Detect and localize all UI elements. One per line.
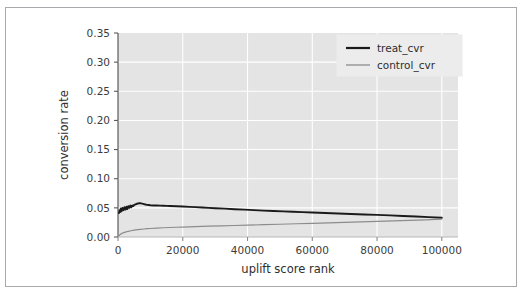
line-chart: 0.000.050.100.150.200.250.300.3502000040… xyxy=(0,0,524,298)
y-tick-label: 0.35 xyxy=(87,27,110,39)
y-tick-label: 0.00 xyxy=(87,231,110,243)
x-tick-label: 100000 xyxy=(422,244,462,256)
x-tick-label: 40000 xyxy=(231,244,264,256)
x-tick-label: 80000 xyxy=(360,244,393,256)
y-tick-label: 0.20 xyxy=(87,114,110,126)
x-tick-label: 0 xyxy=(115,244,122,256)
x-tick-label: 60000 xyxy=(296,244,329,256)
y-tick-label: 0.25 xyxy=(87,85,110,97)
figure-canvas: 0.000.050.100.150.200.250.300.3502000040… xyxy=(0,0,524,298)
y-tick-label: 0.30 xyxy=(87,56,110,68)
legend-label-control-cvr: control_cvr xyxy=(377,59,436,72)
x-axis-title: uplift score rank xyxy=(241,262,335,276)
x-tick-label: 20000 xyxy=(166,244,199,256)
y-tick-label: 0.15 xyxy=(87,143,110,155)
legend: treat_cvrcontrol_cvr xyxy=(337,35,462,76)
y-tick-label: 0.05 xyxy=(87,202,110,214)
legend-label-treat-cvr: treat_cvr xyxy=(377,42,424,55)
y-axis-title: conversion rate xyxy=(57,90,71,180)
y-tick-label: 0.10 xyxy=(87,172,110,184)
